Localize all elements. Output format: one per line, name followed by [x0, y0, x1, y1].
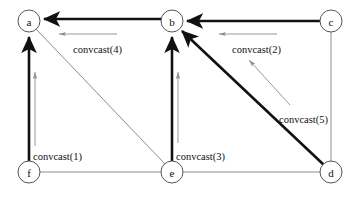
- label-convcast2: convcast(2): [232, 44, 281, 56]
- label-convcast3: convcast(3): [176, 151, 225, 163]
- node-c[interactable]: c: [320, 10, 342, 32]
- node-b-label: b: [169, 16, 175, 28]
- label-convcast5: convcast(5): [279, 114, 328, 126]
- node-e[interactable]: e: [161, 161, 183, 183]
- node-a[interactable]: a: [18, 10, 40, 32]
- node-d[interactable]: d: [320, 161, 342, 183]
- node-f[interactable]: f: [18, 161, 40, 183]
- annotation-label-layer: convcast(1) convcast(2) convcast(3) conv…: [33, 44, 328, 163]
- tree-edge-layer: [29, 19, 324, 165]
- convergecast-figure: a b c d e f conv: [0, 0, 361, 198]
- label-convcast1: convcast(1): [33, 151, 82, 163]
- label-convcast4: convcast(4): [73, 44, 122, 56]
- graph-diagram: a b c d e f conv: [0, 0, 361, 198]
- node-b[interactable]: b: [161, 10, 183, 32]
- node-a-label: a: [27, 16, 32, 28]
- node-d-label: d: [328, 167, 334, 179]
- node-c-label: c: [329, 16, 334, 28]
- node-f-label: f: [27, 167, 31, 179]
- node-e-label: e: [170, 167, 175, 179]
